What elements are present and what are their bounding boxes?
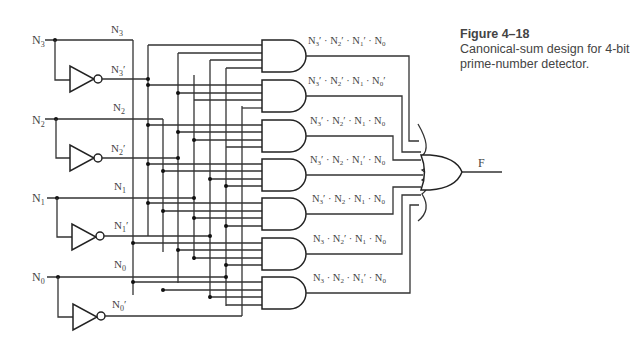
svg-text:N3 · N2′ · N1 · N0: N3 · N2′ · N1 · N0	[313, 233, 386, 246]
svg-text:N3′ · N2′ · N1 · N0: N3′ · N2′ · N1 · N0	[310, 115, 386, 128]
and-gate-7	[262, 277, 306, 309]
and-gates	[262, 40, 306, 309]
or-gate: F	[418, 124, 502, 221]
and-gate-3	[262, 120, 306, 152]
input-n1: N1 N1 N1′	[32, 180, 210, 250]
svg-text:N1: N1	[32, 191, 45, 207]
svg-text:N0: N0	[114, 258, 126, 273]
inverter-n2	[70, 145, 102, 171]
inverter-n3	[70, 66, 102, 92]
inverter-n0	[73, 304, 105, 330]
svg-text:N0′: N0′	[112, 298, 126, 313]
svg-text:N3′ · N2′ · N1 · N0′: N3′ · N2′ · N1 · N0′	[308, 75, 386, 88]
and-gate-1	[262, 40, 306, 72]
and-gate-2	[262, 80, 306, 112]
junction-dots	[131, 77, 228, 299]
svg-text:N3: N3	[32, 33, 45, 49]
svg-text:N0: N0	[32, 270, 45, 286]
figure-label: Figure 4–18	[460, 27, 630, 42]
svg-text:N2: N2	[32, 113, 45, 129]
svg-text:N2: N2	[113, 101, 125, 116]
and-gate-6	[262, 238, 306, 270]
product-term-labels: N3′ · N2′ · N1′ · N0 N3′ · N2′ · N1 · N0…	[308, 35, 386, 285]
svg-text:N1: N1	[114, 180, 126, 195]
and-gate-4	[262, 159, 306, 191]
svg-text:N3: N3	[111, 23, 123, 38]
svg-text:N2′: N2′	[111, 142, 125, 157]
svg-text:N3′ · N2′ · N1′ · N0: N3′ · N2′ · N1′ · N0	[308, 35, 386, 48]
svg-text:N3′ · N2 · N1 · N0: N3′ · N2 · N1 · N0	[312, 193, 385, 206]
input-n3: N3 N3 N3′	[32, 23, 148, 92]
svg-text:N3′ · N2 · N1′ · N0: N3′ · N2 · N1′ · N0	[310, 154, 386, 167]
inverter-n1	[72, 224, 104, 250]
svg-text:N3 · N2 · N1′ · N0: N3 · N2 · N1′ · N0	[313, 272, 386, 285]
input-n2: N2 N2 N2′	[32, 101, 178, 171]
or-input-wires	[306, 56, 423, 293]
svg-text:N3′: N3′	[111, 63, 125, 78]
output-f-label: F	[478, 156, 485, 170]
bus-lines	[133, 40, 242, 316]
svg-text:N1′: N1′	[114, 219, 128, 234]
figure-caption: Figure 4–18 Canonical-sum design for 4-b…	[460, 27, 630, 72]
figure-description: Canonical-sum design for 4-bit prime-num…	[460, 42, 630, 72]
and-gate-5	[262, 198, 306, 230]
